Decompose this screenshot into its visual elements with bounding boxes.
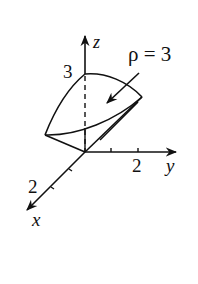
solid-region <box>45 74 142 152</box>
x-tick-label: 2 <box>28 176 38 197</box>
y-axis <box>85 148 176 152</box>
z-tick-label: 3 <box>63 61 73 82</box>
z-axis-label: z <box>92 32 100 52</box>
y-axis-label: y <box>164 155 175 176</box>
rho-annotation: ρ = 3 <box>128 42 171 66</box>
y-tick-label: 2 <box>132 155 142 176</box>
x-axis-label: x <box>31 209 41 230</box>
spherical-region-diagram: z 3 2 y 2 x ρ = 3 <box>0 0 198 284</box>
